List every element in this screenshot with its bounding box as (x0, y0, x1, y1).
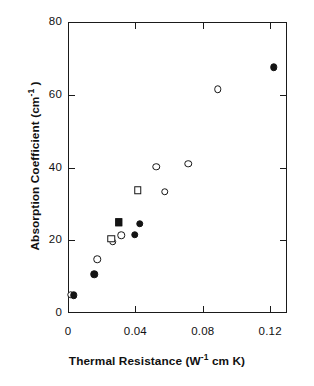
data-point (131, 231, 139, 239)
data-point (136, 220, 144, 228)
x-tick-label-0.04: 0.04 (124, 325, 147, 337)
y-tick-60 (68, 95, 75, 96)
x-tick-label-0.12: 0.12 (259, 325, 282, 337)
y-tick-40 (68, 168, 75, 169)
x-axis-title: Thermal Resistance (W-1 cm K) (0, 352, 314, 368)
x-tick-top-0.12 (270, 22, 271, 29)
superscript: -1 (201, 352, 209, 362)
plot-frame (68, 22, 287, 313)
x-tick-label-0.08: 0.08 (191, 325, 214, 337)
y-tick-label-0: 0 (28, 306, 62, 318)
y-axis-title: Absorption Coefficient (cm-1 ) (26, 46, 42, 286)
x-tick-top-0.08 (203, 22, 204, 29)
data-point (94, 255, 102, 263)
superscript: -1 (26, 89, 36, 97)
data-point (90, 271, 98, 279)
data-point (117, 231, 125, 239)
data-point (214, 86, 222, 94)
y-tick-right-40 (280, 168, 287, 169)
y-tick-20 (68, 240, 75, 241)
x-tick-0.12 (270, 306, 271, 313)
data-point (270, 64, 278, 72)
plot-area (69, 23, 286, 312)
scatter-chart-figure: 02040608000.040.080.12 Thermal Resistanc… (0, 0, 314, 386)
data-point (161, 188, 169, 196)
data-point (185, 160, 193, 168)
y-tick-right-20 (280, 240, 287, 241)
data-point (108, 235, 116, 243)
y-tick-label-80: 80 (28, 15, 62, 27)
x-tick-0.08 (203, 306, 204, 313)
y-tick-right-60 (280, 95, 287, 96)
data-point (115, 218, 123, 226)
x-tick-label-0: 0 (65, 325, 72, 337)
x-tick-top-0.04 (135, 22, 136, 29)
data-point (134, 186, 142, 194)
x-tick-0.04 (135, 306, 136, 313)
data-point (153, 163, 161, 171)
data-point (70, 291, 78, 299)
